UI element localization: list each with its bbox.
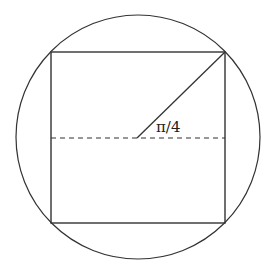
angle-label: π/4 xyxy=(156,118,180,136)
diagonal-line xyxy=(137,52,225,138)
diagram-canvas: π/4 xyxy=(0,0,272,274)
